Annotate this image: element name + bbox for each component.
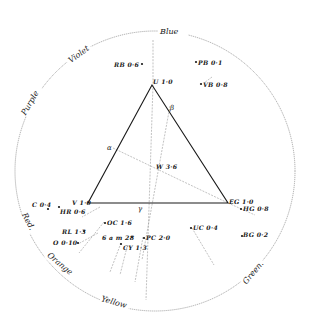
colour-triangle-diagram: Blue Violet Purple Red. Orange Yellow Gr… — [0, 0, 310, 329]
sample-label-o: O 0·10 — [53, 239, 78, 246]
sample-label-hr: HR 0·6 — [59, 208, 86, 215]
alpha-label: α — [107, 144, 112, 152]
hue-label-blue: Blue — [159, 27, 179, 36]
beta-label: β — [169, 104, 174, 112]
sample-label-pc: PC 2·0 — [145, 234, 171, 241]
gamma-label: γ — [138, 205, 143, 213]
sample-label-oc: OC 1·6 — [107, 219, 132, 226]
sample-label-cy: CY 1·3 — [123, 244, 147, 251]
sample-label-vb: VB 0·8 — [203, 81, 228, 88]
sample-label-rl: RL 1·3 — [61, 228, 87, 235]
hue-labels: Blue Violet Purple Red. Orange Yellow Gr… — [17, 26, 267, 312]
sample-label-hg: HG 0·8 — [242, 205, 269, 212]
sample-label-uc: UC 0·4 — [193, 224, 218, 231]
sample-label-bg: BG 0·2 — [242, 231, 269, 238]
sample-points — [47, 61, 243, 245]
vertex-e-label: EG 1·0 — [228, 198, 254, 205]
sample-label-rb: RB 0·6 — [113, 61, 139, 68]
sample-label-am: 6 a m 28 — [102, 234, 135, 241]
sample-label-pb: PB 0·1 — [197, 59, 223, 66]
white-point-label: W 3·6 — [156, 163, 178, 170]
vertex-u-label: U 1·0 — [153, 78, 173, 85]
sample-label-c: C 0·4 — [32, 201, 51, 208]
vertex-v-label: V 1·0 — [72, 199, 92, 206]
